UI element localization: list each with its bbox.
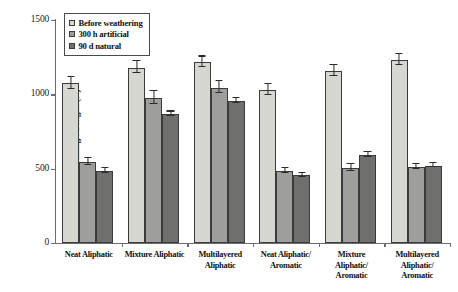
error-bar <box>367 151 368 157</box>
bar <box>162 114 179 243</box>
x-label-line: Neat Aliphatic <box>56 250 122 261</box>
x-label-line: Multilayered <box>187 250 253 261</box>
bar-group <box>391 60 442 243</box>
legend-label: 90 d natural <box>79 41 122 51</box>
y-tick-label: 500 <box>35 163 49 173</box>
bar-group <box>259 90 310 243</box>
x-label-line: Aromatic <box>384 271 450 282</box>
error-bar <box>333 64 334 76</box>
error-bar <box>219 80 220 93</box>
bar <box>425 166 442 243</box>
legend-label: 300 h artificial <box>79 29 129 39</box>
error-bar <box>202 55 203 67</box>
bar-group <box>128 68 179 243</box>
error-bar <box>136 60 137 73</box>
x-tick <box>253 243 254 247</box>
bar-group <box>325 71 376 243</box>
legend-swatch-icon <box>69 20 75 26</box>
y-tick-label: 1000 <box>31 88 49 98</box>
x-axis-label: MultilayeredAliphatic/Aromatic <box>384 250 450 282</box>
x-axis-label: MultilayeredAliphatic <box>187 250 253 271</box>
chart-figure: Breaking strength (N) 050010001500 Neat … <box>0 0 458 292</box>
legend-swatch-icon <box>69 31 75 37</box>
error-bar <box>70 76 71 89</box>
x-label-line: Aliphatic/ <box>384 261 450 272</box>
y-tick <box>51 243 56 244</box>
bar <box>259 90 276 243</box>
legend: Before weathering300 h artificial90 d na… <box>64 13 150 56</box>
bar <box>128 68 145 243</box>
bar <box>79 162 96 243</box>
bar <box>359 155 376 243</box>
y-tick <box>51 20 56 21</box>
bar <box>325 71 342 243</box>
x-axis-label: MixtureAliphatic/Aromatic <box>319 250 385 282</box>
x-label-line: Aromatic <box>253 261 319 272</box>
y-tick-label: 0 <box>44 237 49 247</box>
x-label-line: Mixture <box>319 250 385 261</box>
legend-swatch-icon <box>69 43 75 49</box>
error-bar <box>284 167 285 173</box>
x-label-line: Aliphatic/ <box>319 261 385 272</box>
bar <box>293 175 310 243</box>
y-tick <box>51 94 56 95</box>
bar <box>62 83 79 243</box>
error-bar <box>267 83 268 95</box>
error-bar <box>416 163 417 169</box>
legend-item: 90 d natural <box>69 40 142 52</box>
bar <box>96 171 113 243</box>
x-tick <box>122 243 123 247</box>
error-bar <box>153 90 154 105</box>
bar <box>194 62 211 243</box>
x-axis-label: Mixture Aliphatic <box>122 250 188 261</box>
legend-item: 300 h artificial <box>69 29 142 41</box>
error-bar <box>104 167 105 173</box>
legend-label: Before weathering <box>79 18 143 28</box>
error-bar <box>236 97 237 103</box>
bar <box>276 171 293 243</box>
error-bar <box>350 163 351 170</box>
y-tick-label: 1500 <box>31 14 49 24</box>
x-label-line: Aromatic <box>319 271 385 282</box>
bar <box>228 101 245 243</box>
error-bar <box>433 162 434 167</box>
x-label-line: Multilayered <box>384 250 450 261</box>
bar <box>145 98 162 243</box>
error-bar <box>170 110 171 116</box>
x-axis-label: Neat Aliphatic/Aromatic <box>253 250 319 271</box>
x-label-line: Mixture Aliphatic <box>122 250 188 261</box>
bar <box>391 60 408 243</box>
bar-group <box>62 83 113 243</box>
error-bar <box>87 157 88 166</box>
x-tick <box>319 243 320 247</box>
x-label-line: Aliphatic <box>187 261 253 272</box>
bar <box>408 167 425 243</box>
x-tick <box>187 243 188 247</box>
x-tick <box>450 243 451 247</box>
x-axis-label: Neat Aliphatic <box>56 250 122 261</box>
bar <box>342 168 359 243</box>
x-tick <box>384 243 385 247</box>
y-tick <box>51 169 56 170</box>
bar <box>211 88 228 243</box>
error-bar <box>301 172 302 177</box>
error-bar <box>399 53 400 65</box>
legend-item: Before weathering <box>69 17 142 29</box>
x-label-line: Neat Aliphatic/ <box>253 250 319 261</box>
bar-group <box>194 62 245 243</box>
